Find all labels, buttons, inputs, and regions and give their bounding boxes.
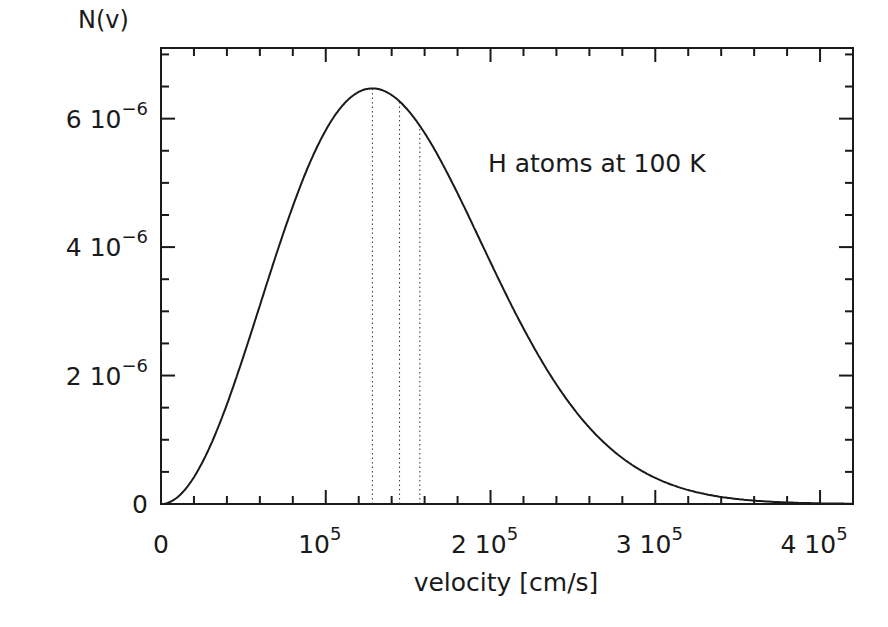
plot-frame bbox=[161, 48, 853, 504]
x-axis-label: velocity [cm/s] bbox=[414, 568, 599, 597]
svg-text:0: 0 bbox=[132, 490, 148, 519]
y-tick-labels: 02 10−64 10−66 10−6 bbox=[66, 98, 148, 519]
svg-text:4 10−6: 4 10−6 bbox=[66, 226, 148, 262]
svg-text:4 105: 4 105 bbox=[780, 523, 847, 559]
annotation-text: H atoms at 100 K bbox=[488, 149, 706, 178]
svg-text:105: 105 bbox=[298, 523, 341, 559]
vertical-markers bbox=[372, 88, 419, 504]
axis-ticks bbox=[161, 48, 853, 504]
svg-text:2 10−6: 2 10−6 bbox=[66, 355, 148, 391]
svg-text:0: 0 bbox=[153, 530, 169, 559]
x-tick-labels: 01052 1053 1054 105 bbox=[153, 523, 848, 559]
svg-text:6 10−6: 6 10−6 bbox=[66, 98, 148, 134]
svg-text:2 105: 2 105 bbox=[451, 523, 518, 559]
y-axis-label: N(v) bbox=[78, 6, 129, 34]
svg-text:3 105: 3 105 bbox=[616, 523, 683, 559]
chart: 02 10−64 10−66 10−6 01052 1053 1054 105 … bbox=[0, 0, 888, 627]
